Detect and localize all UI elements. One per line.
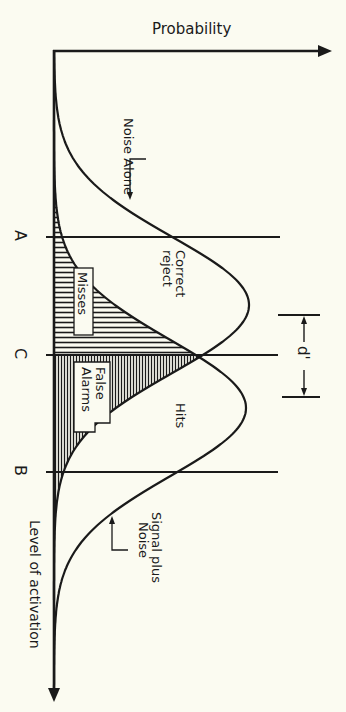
hits-label: Hits (173, 403, 188, 428)
correct-reject-label-line2: reject (160, 250, 175, 287)
misses-label: Misses (75, 272, 90, 315)
criterion-label-b: B (11, 465, 30, 476)
probability-axis-label: Probability (152, 20, 231, 38)
signal-detection-diagram: Probability Level of activation A C B No… (0, 0, 346, 712)
false-alarms-label-line1: False (93, 367, 108, 400)
criterion-label-a: A (11, 230, 30, 241)
d-prime-up-arrow-icon (301, 316, 307, 324)
signal-pointer (112, 520, 128, 550)
activation-axis-arrow-icon (48, 688, 60, 702)
signal-plus-noise-label-line2: Noise (136, 522, 151, 558)
d-prime-label: d' (294, 346, 312, 360)
signal-pointer-arrow-icon (109, 516, 115, 524)
noise-pointer-arrow-icon (127, 192, 133, 200)
activation-axis-label: Level of activation (27, 520, 43, 649)
noise-alone-label: Noise Alone (121, 118, 136, 195)
false-alarms-label-line2: Alarms (79, 367, 94, 412)
d-prime-down-arrow-icon (301, 388, 307, 396)
probability-axis-arrow-icon (318, 45, 332, 57)
criterion-label-c: C (11, 348, 30, 359)
